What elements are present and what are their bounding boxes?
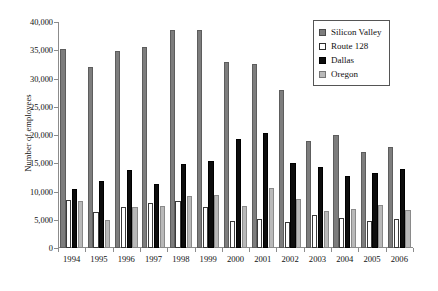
legend-item[interactable]: Oregon	[319, 67, 382, 81]
bar-dallas-2005	[372, 173, 377, 248]
y-axis-tick	[54, 192, 58, 193]
swatch-dallas-icon	[319, 57, 326, 64]
x-axis-tick	[276, 248, 277, 252]
bar-silicon-valley-2005	[361, 152, 366, 248]
x-axis-tick-label: 2005	[363, 254, 380, 264]
y-axis-tick-label: 15,000	[30, 159, 53, 168]
bar-silicon-valley-2000	[224, 62, 229, 248]
bar-dallas-1998	[181, 164, 186, 248]
bar-oregon-2003	[324, 211, 329, 248]
bar-route-128-2002	[285, 222, 290, 248]
bar-route-128-1999	[203, 207, 208, 248]
legend-item-label: Silicon Valley	[331, 27, 382, 37]
chart-legend: Silicon ValleyRoute 128DallasOregon	[313, 20, 390, 86]
y-axis-tick-label: 35,000	[30, 46, 53, 55]
bar-silicon-valley-1999	[197, 30, 202, 248]
y-axis-tick	[54, 22, 58, 23]
bar-silicon-valley-1997	[142, 47, 147, 248]
bar-silicon-valley-2001	[252, 64, 257, 248]
swatch-oregon-icon	[319, 71, 326, 78]
legend-item[interactable]: Route 128	[319, 39, 382, 53]
bar-chart: Number of employees 05,00010,00015,00020…	[0, 0, 438, 291]
bar-oregon-2005	[378, 205, 383, 249]
bar-oregon-2000	[242, 206, 247, 248]
bar-route-128-2000	[230, 221, 235, 248]
y-axis-tick	[54, 135, 58, 136]
x-axis-tick	[58, 248, 59, 252]
y-axis-tick-label: 25,000	[30, 102, 53, 111]
bar-silicon-valley-1995	[88, 67, 93, 248]
bar-route-128-1998	[175, 201, 180, 248]
y-axis-tick-label: 5,000	[34, 215, 53, 224]
y-axis-tick-label: 0	[49, 244, 53, 253]
swatch-route-128-icon	[319, 43, 326, 50]
legend-item-label: Route 128	[331, 41, 368, 51]
legend-item-label: Dallas	[331, 55, 354, 65]
bar-dallas-2002	[290, 163, 295, 248]
bar-dallas-2004	[345, 176, 350, 248]
bar-route-128-1994	[66, 200, 71, 248]
bar-dallas-2001	[263, 133, 268, 248]
x-axis-tick-label: 1997	[145, 254, 162, 264]
bar-oregon-1997	[160, 206, 165, 248]
y-axis-tick	[54, 163, 58, 164]
y-axis-tick	[54, 220, 58, 221]
y-axis-line	[58, 22, 59, 248]
bar-route-128-2005	[367, 221, 372, 248]
y-axis-tick-label: 20,000	[30, 131, 53, 140]
x-axis-tick-label: 2003	[309, 254, 326, 264]
bar-silicon-valley-2002	[279, 90, 284, 248]
x-axis-tick	[249, 248, 250, 252]
legend-item-label: Oregon	[331, 69, 358, 79]
y-axis-tick-label: 40,000	[30, 18, 53, 27]
bar-route-128-1995	[93, 212, 98, 248]
bar-oregon-1999	[214, 195, 219, 248]
x-axis-tick	[358, 248, 359, 252]
x-axis-tick	[113, 248, 114, 252]
bar-dallas-2003	[318, 167, 323, 248]
y-axis-tick	[54, 79, 58, 80]
bar-route-128-2006	[394, 219, 399, 248]
x-axis-tick	[413, 248, 414, 252]
bar-oregon-2004	[351, 209, 356, 248]
bar-route-128-1996	[121, 207, 126, 248]
x-axis-tick-label: 1998	[172, 254, 189, 264]
legend-item[interactable]: Silicon Valley	[319, 25, 382, 39]
y-axis-tick	[54, 107, 58, 108]
bar-dallas-1996	[127, 170, 132, 248]
x-axis-tick	[167, 248, 168, 252]
legend-item[interactable]: Dallas	[319, 53, 382, 67]
bar-oregon-1994	[78, 201, 83, 248]
x-axis-tick-label: 1996	[118, 254, 135, 264]
bar-oregon-1995	[105, 220, 110, 248]
bar-silicon-valley-2003	[306, 141, 311, 248]
bar-route-128-1997	[148, 203, 153, 248]
x-axis-tick	[140, 248, 141, 252]
bar-dallas-1994	[72, 189, 77, 248]
bar-oregon-1998	[187, 196, 192, 248]
x-axis-tick-label: 2000	[227, 254, 244, 264]
x-axis-tick-label: 2002	[282, 254, 299, 264]
bar-route-128-2003	[312, 215, 317, 248]
x-axis-tick-label: 2004	[336, 254, 353, 264]
swatch-silicon-valley-icon	[319, 29, 326, 36]
bar-oregon-2001	[269, 188, 274, 248]
x-axis-tick	[386, 248, 387, 252]
x-axis-tick-label: 2006	[391, 254, 408, 264]
bar-silicon-valley-1994	[60, 49, 65, 248]
x-axis-tick	[85, 248, 86, 252]
bar-dallas-1995	[99, 181, 104, 248]
x-axis-tick	[195, 248, 196, 252]
y-axis-tick	[54, 50, 58, 51]
bar-route-128-2004	[339, 218, 344, 249]
bar-route-128-2001	[257, 219, 262, 248]
bar-dallas-2006	[400, 169, 405, 248]
x-axis-tick-label: 2001	[254, 254, 271, 264]
x-axis-tick	[331, 248, 332, 252]
bar-dallas-1997	[154, 184, 159, 248]
bar-silicon-valley-2006	[388, 147, 393, 248]
bar-dallas-1999	[208, 161, 213, 248]
y-axis-tick-label: 30,000	[30, 74, 53, 83]
bar-silicon-valley-1998	[170, 30, 175, 248]
x-axis-tick-label: 1994	[63, 254, 80, 264]
